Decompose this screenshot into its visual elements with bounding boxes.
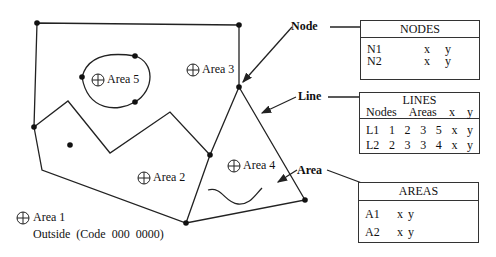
lines-header-nodes: Nodes [366, 106, 397, 118]
nodes-table-title: NODES [361, 21, 479, 38]
area1-label: Area 1 [33, 211, 65, 224]
table-row: A2 x y [365, 223, 472, 241]
area-callout-label: Area [297, 164, 322, 177]
table-row: N2 x y [367, 55, 473, 67]
node-marker [302, 197, 308, 203]
area2-label: Area 2 [153, 171, 185, 184]
node-marker [79, 74, 85, 80]
line-callout-arrow [262, 97, 296, 113]
area4-squiggle [208, 188, 262, 204]
outside-label: Outside (Code 000 0000) [33, 228, 164, 241]
map-line-zigzag [34, 101, 210, 155]
lines-header-y: y [467, 106, 473, 118]
node-callout-arrow [243, 27, 292, 82]
node-marker [31, 124, 37, 130]
lines-header-areas: Areas [409, 106, 437, 118]
table-row: L2 2 3 3 4 x y [366, 138, 473, 153]
node-callout-label: Node [291, 20, 318, 33]
centroid-icon-area2 [138, 172, 150, 184]
table-row: N1 x y [367, 43, 473, 55]
node-marker [132, 99, 138, 105]
table-row: L1 1 2 3 5 x y [366, 123, 473, 138]
lines-header-x: x [449, 106, 455, 118]
areas-table-title: AREAS [359, 183, 478, 201]
node-marker [236, 22, 242, 28]
node-marker [236, 84, 242, 90]
map-line-lower [34, 87, 305, 223]
node-marker [207, 152, 213, 158]
centroid-icon-area1 [17, 212, 29, 224]
area5-label: Area 5 [107, 73, 139, 86]
nodes-table: NODES N1 x y N2 x y [360, 20, 480, 80]
line-callout-label: Line [298, 90, 321, 103]
centroid-icon-area4 [228, 160, 240, 172]
areas-table: AREAS A1 x y A2 x y [358, 182, 479, 243]
table-row: A1 x y [365, 205, 472, 223]
node-marker [183, 220, 189, 226]
node-marker [132, 53, 138, 59]
centroid-icon-area5 [92, 74, 104, 86]
node-marker [34, 20, 40, 26]
point-marker [67, 142, 73, 148]
area4-label: Area 4 [243, 159, 275, 172]
lines-table: LINES Nodes Areas x y L1 1 2 3 5 x y L2 … [359, 92, 480, 154]
area3-label: Area 3 [202, 63, 234, 76]
centroid-icon-area3 [187, 64, 199, 76]
